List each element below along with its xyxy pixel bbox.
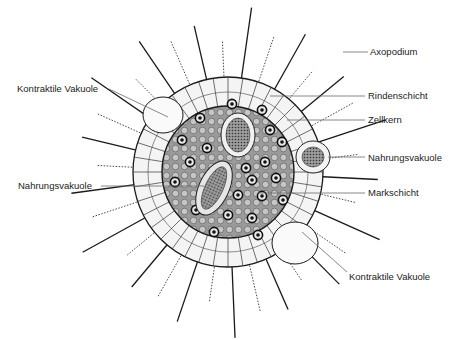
nucleus: [247, 175, 256, 184]
label-kontraktile-vakuole-bottom: Kontraktile Vakuole: [349, 271, 430, 282]
nucleus: [195, 113, 204, 122]
nucleus: [277, 137, 286, 146]
label-nahrungsvakuole-left: Nahrungsvakuole: [18, 180, 92, 191]
nucleus: [260, 157, 269, 166]
label-nahrungsvakuole-right: Nahrungsvakuole: [368, 152, 442, 163]
nucleus: [233, 190, 242, 199]
label-rindenschicht: Rindenschicht: [368, 90, 428, 101]
heliozoon-diagram: Axopodium Rindenschicht Zellkern Nahrung…: [0, 0, 465, 340]
nucleus: [223, 210, 232, 219]
contractile-vacuole-bottom: [272, 222, 318, 264]
nucleus: [271, 173, 280, 182]
nucleus: [227, 99, 236, 108]
label-zellkern: Zellkern: [368, 114, 402, 125]
nucleus: [241, 163, 250, 172]
nucleus: [170, 177, 179, 186]
label-markschicht: Markschicht: [368, 187, 419, 198]
label-axopodium: Axopodium: [370, 46, 418, 57]
nucleus: [278, 195, 287, 204]
nucleus: [209, 227, 218, 236]
label-kontraktile-vakuole-top: Kontraktile Vakuole: [17, 83, 98, 94]
nucleus: [253, 230, 262, 239]
food-vacuole-center: [221, 113, 255, 157]
nucleus: [202, 143, 211, 152]
nucleus: [177, 135, 186, 144]
nucleus: [257, 105, 266, 114]
nucleus: [265, 125, 274, 134]
nucleus: [247, 213, 256, 222]
nucleus: [185, 157, 194, 166]
food-vacuole-right: [296, 141, 330, 173]
